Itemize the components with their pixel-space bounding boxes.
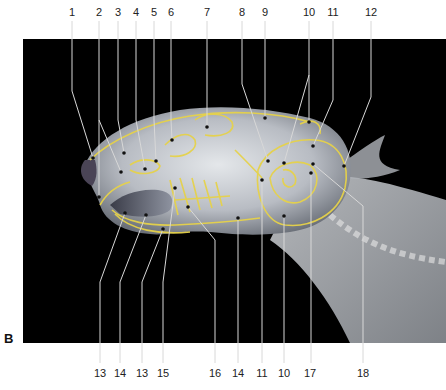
- label-2: 2: [96, 6, 102, 18]
- top-labels: 1 2 3 4 5 6 7 8 9 10 11 12: [69, 6, 377, 18]
- label-4: 4: [133, 6, 139, 18]
- label-14-a: 14: [114, 367, 126, 379]
- label-18: 18: [357, 367, 369, 379]
- label-15: 15: [157, 367, 169, 379]
- label-17: 17: [304, 367, 316, 379]
- label-11-bottom: 11: [256, 367, 267, 379]
- panel-letter: B: [4, 331, 13, 346]
- label-5: 5: [151, 6, 157, 18]
- label-6: 6: [168, 6, 174, 18]
- label-3: 3: [115, 6, 121, 18]
- label-11-top: 11: [327, 6, 338, 18]
- radiograph-figure: 1 2 3 4 5 6 7 8 9 10 11 12 13 14 13 15 1…: [0, 0, 446, 390]
- bottom-labels: 13 14 13 15 16 14 11 10 17 18: [94, 367, 369, 379]
- label-1: 1: [69, 6, 75, 18]
- label-14-b: 14: [232, 367, 244, 379]
- label-8: 8: [239, 6, 245, 18]
- label-10-top: 10: [303, 6, 315, 18]
- label-9: 9: [262, 6, 268, 18]
- label-7: 7: [204, 6, 210, 18]
- label-10-bottom: 10: [278, 367, 290, 379]
- label-13-b: 13: [136, 367, 148, 379]
- label-12: 12: [365, 6, 377, 18]
- label-13-a: 13: [94, 367, 106, 379]
- label-16: 16: [209, 367, 221, 379]
